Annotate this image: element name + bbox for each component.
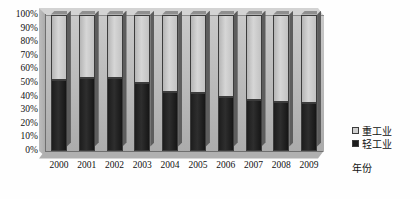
bar-segment-heavy-industry[interactable] — [246, 15, 262, 101]
bar-side-face — [206, 11, 210, 147]
chart-legend: 重工业 轻工业 — [352, 124, 416, 150]
x-axis-tick-label: 2008 — [269, 160, 293, 171]
bar-segment-heavy-industry[interactable] — [273, 15, 289, 102]
legend-swatch-icon — [352, 127, 359, 134]
bar-segment-light-industry[interactable] — [273, 102, 289, 151]
bar-segment-heavy-industry[interactable] — [190, 15, 206, 94]
x-axis-tick-label: 2000 — [47, 160, 71, 171]
legend-item-label: 轻工业 — [362, 136, 392, 151]
x-axis-tick-labels: 2000200120022003200420052006200720082009 — [39, 160, 329, 174]
y-axis-tick-label: 10% — [21, 132, 38, 141]
x-axis-tick-label: 2007 — [242, 160, 266, 171]
y-axis-tick-label: 70% — [21, 51, 38, 60]
legend-swatch-icon — [352, 140, 359, 147]
chart-figure: 100%90%80%70%60%50%40%30%20%10%0% 200020… — [0, 0, 420, 199]
y-axis-tick-label: 90% — [21, 24, 38, 33]
bar-segment-heavy-industry[interactable] — [218, 15, 234, 98]
bar-side-face — [178, 11, 182, 147]
y-axis-tick-label: 30% — [21, 105, 38, 114]
legend-item-light-industry[interactable]: 轻工业 — [352, 137, 416, 150]
x-axis-tick-label: 2003 — [130, 160, 154, 171]
y-axis-tick-label: 100% — [16, 10, 38, 19]
chart-3d-floor — [39, 151, 324, 159]
bar-side-face — [95, 11, 99, 147]
bar-column[interactable] — [107, 15, 123, 151]
x-axis-tick-label: 2009 — [297, 160, 321, 171]
bar-segment-light-industry[interactable] — [190, 93, 206, 150]
y-axis-tick-labels: 100%90%80%70%60%50%40%30%20%10%0% — [0, 14, 40, 164]
bar-segment-heavy-industry[interactable] — [51, 15, 67, 80]
bar-side-face — [123, 11, 127, 147]
bar-column[interactable] — [51, 15, 67, 151]
bar-series-group — [45, 15, 323, 151]
bar-segment-heavy-industry[interactable] — [79, 15, 95, 79]
bar-side-face — [67, 11, 71, 147]
bar-side-face — [262, 11, 266, 147]
bar-column[interactable] — [273, 15, 289, 151]
bar-segment-light-industry[interactable] — [51, 80, 67, 151]
y-axis-tick-label: 80% — [21, 37, 38, 46]
bar-segment-light-industry[interactable] — [246, 100, 262, 150]
plot-area: 100%90%80%70%60%50%40%30%20%10%0% 200020… — [0, 0, 420, 199]
x-axis-tick-label: 2005 — [186, 160, 210, 171]
bar-segment-light-industry[interactable] — [134, 83, 150, 151]
y-axis-tick-label: 50% — [21, 78, 38, 87]
y-axis-tick-label: 20% — [21, 119, 38, 128]
x-axis-title: 年份 — [352, 160, 372, 175]
bar-segment-light-industry[interactable] — [301, 103, 317, 151]
x-axis-tick-label: 2001 — [75, 160, 99, 171]
bar-segment-light-industry[interactable] — [79, 78, 95, 150]
x-axis-tick-label: 2002 — [103, 160, 127, 171]
bar-column[interactable] — [162, 15, 178, 151]
bar-segment-light-industry[interactable] — [218, 97, 234, 150]
bar-column[interactable] — [190, 15, 206, 151]
bar-segment-light-industry[interactable] — [162, 92, 178, 150]
bar-segment-heavy-industry[interactable] — [162, 15, 178, 93]
bar-segment-light-industry[interactable] — [107, 78, 123, 150]
bar-column[interactable] — [79, 15, 95, 151]
bar-side-face — [234, 11, 238, 147]
x-axis-tick-label: 2006 — [214, 160, 238, 171]
bar-column[interactable] — [134, 15, 150, 151]
bar-column[interactable] — [246, 15, 262, 151]
bar-segment-heavy-industry[interactable] — [134, 15, 150, 83]
bar-column[interactable] — [301, 15, 317, 151]
bar-side-face — [317, 11, 321, 147]
bar-column[interactable] — [218, 15, 234, 151]
x-axis-line — [45, 151, 323, 152]
bar-side-face — [150, 11, 154, 147]
x-axis-tick-label: 2004 — [158, 160, 182, 171]
y-axis-tick-label: 60% — [21, 64, 38, 73]
bar-segment-heavy-industry[interactable] — [107, 15, 123, 79]
bar-segment-heavy-industry[interactable] — [301, 15, 317, 103]
bar-side-face — [289, 11, 293, 147]
y-axis-tick-label: 0% — [25, 146, 38, 155]
y-axis-tick-label: 40% — [21, 92, 38, 101]
